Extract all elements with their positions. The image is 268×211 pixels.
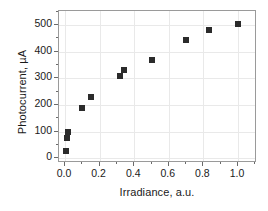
data-point — [65, 129, 71, 135]
data-point — [117, 73, 123, 79]
gridline-vertical — [134, 11, 135, 161]
data-point — [235, 21, 241, 27]
gridline-vertical — [203, 11, 204, 161]
y-tick-minor — [56, 91, 58, 92]
x-tick — [64, 162, 65, 166]
y-tick — [54, 104, 58, 105]
y-tick-label: 500 — [12, 17, 52, 29]
x-tick-label: 1.0 — [217, 167, 257, 179]
x-tick — [168, 162, 169, 166]
x-tick-minor — [254, 162, 255, 164]
data-point — [88, 94, 94, 100]
y-tick-minor — [56, 37, 58, 38]
data-point — [121, 67, 127, 73]
y-tick — [54, 157, 58, 158]
y-tick-label: 300 — [12, 70, 52, 82]
gridline-horizontal — [59, 158, 255, 159]
x-tick — [133, 162, 134, 166]
gridline-vertical — [238, 11, 239, 161]
gridline-horizontal — [59, 132, 255, 133]
gridline-vertical — [169, 11, 170, 161]
gridline-horizontal — [59, 25, 255, 26]
data-point — [206, 27, 212, 33]
x-tick-minor — [81, 162, 82, 164]
y-tick-label: 0 — [12, 150, 52, 162]
y-tick-label: 200 — [12, 97, 52, 109]
y-tick — [54, 24, 58, 25]
data-point — [63, 148, 69, 154]
data-point — [149, 57, 155, 63]
y-tick — [54, 131, 58, 132]
x-tick-minor — [185, 162, 186, 164]
gridline-vertical — [100, 11, 101, 161]
y-tick-minor — [56, 64, 58, 65]
y-tick-minor — [56, 144, 58, 145]
y-tick-minor — [56, 117, 58, 118]
plot-area — [58, 10, 256, 162]
x-tick — [202, 162, 203, 166]
y-tick — [54, 51, 58, 52]
gridline-horizontal — [59, 105, 255, 106]
y-tick-label: 400 — [12, 44, 52, 56]
y-tick-label: 100 — [12, 124, 52, 136]
data-point — [64, 135, 70, 141]
x-axis-title: Irradiance, a.u. — [58, 186, 256, 198]
x-tick-minor — [116, 162, 117, 164]
y-tick-minor — [56, 11, 58, 12]
data-point — [79, 105, 85, 111]
y-tick — [54, 77, 58, 78]
gridline-horizontal — [59, 52, 255, 53]
x-tick-minor — [220, 162, 221, 164]
chart-figure: Photocurrent, µA Irradiance, a.u. 010020… — [0, 0, 268, 211]
data-point — [183, 37, 189, 43]
gridline-horizontal — [59, 78, 255, 79]
x-tick — [237, 162, 238, 166]
x-tick — [99, 162, 100, 166]
x-tick-minor — [151, 162, 152, 164]
